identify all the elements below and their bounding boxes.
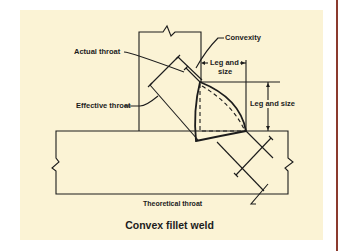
- weld-convex-profile: [195, 82, 246, 141]
- effective-throat-line-lower: [150, 85, 198, 140]
- label-theoretical-throat: Theoretical throat: [143, 200, 202, 207]
- fillet-weld-drawing: [0, 0, 339, 251]
- convexity-ext: [186, 68, 200, 82]
- actual-throat-ext: [178, 57, 202, 80]
- vertical-plate: [139, 26, 201, 131]
- label-leg-and-size-top-line1: Leg and: [210, 59, 239, 67]
- label-actual-throat: Actual throat: [74, 48, 120, 56]
- actual-throat-leader: [124, 52, 184, 72]
- theoretical-throat-ext: [217, 142, 264, 191]
- horizontal-plate: [52, 131, 293, 194]
- weld-theoretical-hypotenuse: [202, 86, 244, 129]
- weld-theoretical-dashed: [200, 84, 246, 131]
- diagram-caption: Convex fillet weld: [0, 219, 339, 231]
- label-effective-throat: Effective throat: [76, 102, 131, 110]
- theoretical-throat-dim: [236, 138, 271, 175]
- label-leg-and-size-right: Leg and size: [250, 100, 295, 108]
- label-leg-and-size-top-line2: size: [218, 68, 232, 76]
- label-convexity: Convexity: [225, 34, 261, 42]
